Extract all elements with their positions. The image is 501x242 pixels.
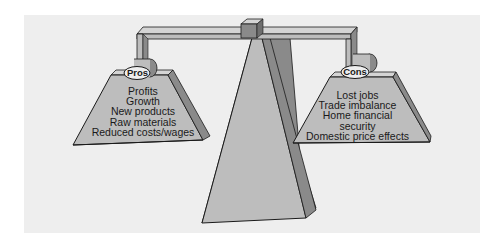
pros-list: Profits Growth New products Raw material… bbox=[88, 86, 198, 137]
cons-list: Lost jobs Trade imbalance Home financial… bbox=[305, 90, 410, 141]
pros-item: Reduced costs/wages bbox=[88, 127, 198, 137]
cons-item: Home financial security bbox=[305, 110, 410, 130]
cons-label: Cons bbox=[341, 66, 369, 77]
fulcrum bbox=[202, 38, 316, 223]
balance-scale-illustration bbox=[0, 0, 501, 242]
pivot-block bbox=[241, 19, 263, 38]
pros-label: Pros bbox=[124, 67, 151, 78]
cons-item: Domestic price effects bbox=[305, 131, 410, 141]
